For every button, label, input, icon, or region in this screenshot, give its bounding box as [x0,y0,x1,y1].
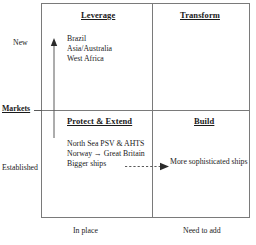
axis-label-markets: Markets [2,104,30,113]
list-item: North Sea PSV & AHTS [67,139,145,149]
strategy-matrix-diagram: Leverage Transform Protect & Extend Buil… [0,0,256,245]
list-item: Asia/Australia [67,44,112,54]
list-item: Bigger ships [67,159,145,169]
axis-tick-label-new: New [13,38,28,47]
axis-tick-label-need-to-add: Need to add [183,226,221,235]
upward-arrow-icon [49,38,59,138]
markets-axis-tick [34,110,42,111]
matrix-vertical-divider [152,3,153,218]
axis-tick-label-in-place: In place [73,226,98,235]
list-item: Norway → Great Britain [67,149,145,159]
quadrant-title-leverage: Leverage [81,10,115,20]
matrix-horizontal-divider [41,110,250,111]
axis-tick-label-established: Established [2,163,38,172]
list-item: Brazil [67,34,112,44]
quadrant-title-transform: Transform [180,10,220,20]
quadrant-items-protect-extend: North Sea PSV & AHTS Norway → Great Brit… [67,139,145,170]
quadrant-items-leverage: Brazil Asia/Australia West Africa [67,34,112,65]
annotation-more-sophisticated-ships: More sophisticated ships [170,157,248,166]
list-item: West Africa [67,54,112,64]
quadrant-title-build: Build [194,116,214,126]
quadrant-title-protect-extend: Protect & Extend [67,116,132,126]
